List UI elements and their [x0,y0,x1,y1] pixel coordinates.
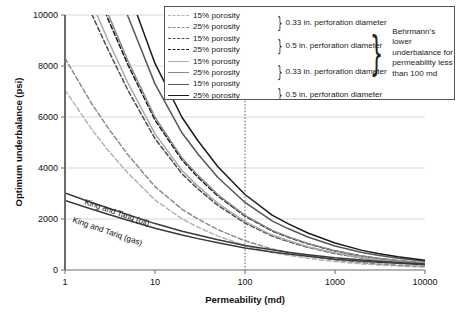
legend-line-sample-solid-icon [168,95,189,96]
legend-group-note: 0.5 in. perforation diameter [286,41,383,50]
legend-item-label: 15% porosity [193,56,240,67]
legend-item-label: 25% porosity [193,90,240,100]
behrmann-note-text: Behrmann's lower underbalance for permea… [392,27,454,80]
legend-group-note: 0.5 in. perforation diameter [286,90,383,99]
y-tick-label: 2000 [38,214,58,224]
legend-group-brace-2: } 0.5 in. perforation diameter [275,34,382,57]
y-tick-label: 10000 [33,10,58,20]
legend-line-sample-dashed-icon [168,49,189,50]
legend-item-label: 25% porosity [193,67,240,78]
legend-item-label: 15% porosity [193,10,240,21]
legend-line-sample-dashed-icon [168,27,189,28]
x-tick-label: 10 [150,277,160,287]
chart-figure: 0200040006000800010000110100100010000 Op… [0,0,459,315]
legend-item-label: 25% porosity [193,44,240,55]
legend-line-sample-dashed-icon [168,38,189,39]
legend-line-sample-solid-icon [168,84,189,85]
y-tick-label: 8000 [38,61,58,71]
chart-legend: 15% porosity25% porosity15% porosity25% … [164,6,455,100]
legend-group-brace-4: } 0.5 in. perforation diameter [275,83,382,100]
legend-entries: 15% porosity25% porosity15% porosity25% … [165,7,361,99]
x-tick-label: 1 [62,277,67,287]
legend-line-sample-dashed-icon [168,15,189,16]
x-axis-title: Permeability (md) [205,294,285,305]
x-tick-label: 100 [237,277,252,287]
y-tick-label: 4000 [38,163,58,173]
legend-line-sample-solid-icon [168,72,189,73]
y-tick-label: 6000 [38,112,58,122]
x-tick-label: 1000 [325,277,345,287]
legend-item-label: 25% porosity [193,21,240,32]
legend-item-label: 15% porosity [193,33,240,44]
legend-item-label: 15% porosity [193,78,240,89]
y-tick-label: 0 [53,265,58,275]
y-axis-title: Optimum underbalance (psi) [13,78,24,207]
legend-line-sample-solid-icon [168,61,189,62]
x-tick-label: 10000 [412,277,437,287]
